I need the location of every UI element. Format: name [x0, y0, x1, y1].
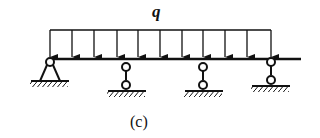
load-label: q [152, 2, 161, 22]
distributed-load [50, 30, 271, 57]
link-support-1 [107, 63, 146, 97]
figure-caption: (c) [130, 113, 148, 131]
link-support-3 [251, 58, 290, 92]
pin-support [30, 58, 69, 87]
link-support-2 [184, 63, 223, 97]
